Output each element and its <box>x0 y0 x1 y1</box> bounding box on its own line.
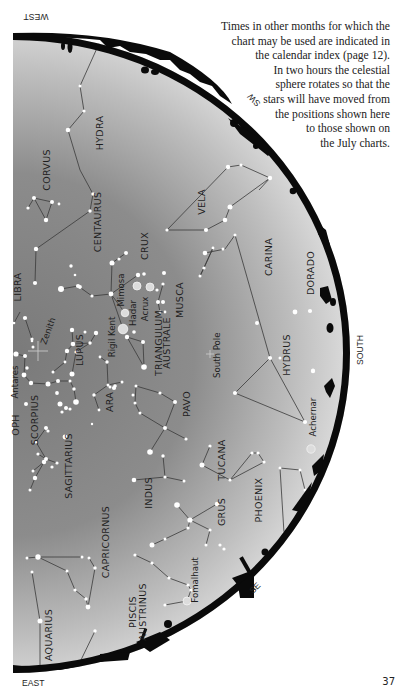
star-icon <box>203 251 208 256</box>
star-icon <box>13 351 18 356</box>
constellation-label: HYDRA <box>94 116 105 151</box>
star-icon <box>64 406 68 410</box>
star-icon <box>163 475 166 478</box>
constellation-label: AUSTRALE <box>161 317 172 369</box>
star-icon <box>73 588 76 591</box>
star-icon <box>31 340 34 343</box>
caption-line: sphere rotates so that the <box>190 78 390 93</box>
star-icon <box>308 309 312 313</box>
star-icon <box>204 228 208 232</box>
star-icon <box>125 335 129 339</box>
constellation-label: PAVO <box>181 391 192 417</box>
caption-line: the July charts. <box>190 137 390 152</box>
star-icon <box>133 553 136 556</box>
star-icon <box>50 465 53 468</box>
star-icon <box>164 538 167 541</box>
star-icon <box>44 218 48 222</box>
direction-west: WEST <box>23 12 49 22</box>
star-icon <box>24 402 28 406</box>
star-icon <box>68 407 71 410</box>
star-icon <box>90 294 93 297</box>
star-icon <box>70 372 75 377</box>
constellation-label: CARINA <box>263 238 274 276</box>
star-icon <box>26 557 29 560</box>
star-icon <box>93 566 96 569</box>
constellation-label: ARA <box>104 392 115 412</box>
star-icon <box>234 234 237 237</box>
star-icon <box>69 264 72 267</box>
star-icon <box>262 460 265 463</box>
star-icon <box>228 205 233 210</box>
star-icon <box>208 444 211 447</box>
star-icon <box>99 356 102 359</box>
star-icon <box>163 426 167 430</box>
star-icon <box>223 218 228 223</box>
star-icon <box>35 554 40 559</box>
star-icon <box>228 478 231 481</box>
star-icon <box>58 203 61 206</box>
constellation-label: HYDRUS <box>281 334 292 376</box>
star-icon <box>46 382 51 387</box>
star-icon <box>150 561 153 564</box>
star-icon <box>293 310 298 315</box>
star-icon <box>31 571 34 574</box>
star-icon <box>44 426 48 430</box>
star-icon <box>91 423 93 425</box>
star-icon <box>56 379 60 383</box>
constellation-label: OPH <box>10 414 21 435</box>
star-icon <box>121 381 124 384</box>
star-icon <box>29 489 32 492</box>
star-icon <box>86 605 91 610</box>
star-icon <box>184 437 187 440</box>
star-icon <box>255 321 259 325</box>
star-icon <box>84 597 87 600</box>
star-icon <box>94 331 98 335</box>
star-icon <box>303 420 307 424</box>
constellation-label: AUSTRINUS <box>137 583 148 640</box>
star-icon <box>58 286 64 292</box>
caption-line: stars will have moved from <box>190 93 390 108</box>
star-name-label: Achernar <box>308 397 318 436</box>
star-icon <box>173 400 177 404</box>
star-icon <box>199 275 202 278</box>
constellation-label: SAGITTARIUS <box>63 433 74 499</box>
star-icon <box>186 526 189 529</box>
star-icon <box>139 412 142 415</box>
star-icon <box>38 619 43 624</box>
constellation-label: CRUX <box>139 232 150 260</box>
constellation-label: DORADO <box>305 251 316 295</box>
star-icon <box>33 476 37 480</box>
star-icon <box>88 557 91 560</box>
caption-line: the positions shown here <box>190 108 390 123</box>
star-icon <box>74 274 77 277</box>
star-icon <box>183 480 186 483</box>
star-icon <box>147 449 153 455</box>
star-icon <box>226 165 230 169</box>
star-icon <box>46 429 49 432</box>
star-icon <box>161 282 164 285</box>
star-icon <box>58 402 63 407</box>
star-icon <box>164 311 167 314</box>
star-icon <box>141 364 147 370</box>
star-icon <box>42 460 46 464</box>
star-icon <box>72 387 75 390</box>
south-pole-label: South Pole <box>212 332 222 378</box>
star-icon <box>98 409 101 412</box>
star-icon <box>23 316 27 320</box>
star-icon <box>161 454 164 457</box>
star-icon <box>208 528 211 531</box>
star-icon <box>22 373 27 378</box>
star-icon <box>82 109 85 112</box>
constellation-label: LIBRA <box>12 272 23 301</box>
star-icon <box>165 228 168 231</box>
star-icon <box>73 399 79 405</box>
star-icon <box>93 629 96 632</box>
constellation-label: CORVUS <box>41 149 52 190</box>
star-icon <box>23 354 27 358</box>
star-icon <box>132 394 135 397</box>
star-icon <box>212 247 215 250</box>
star-icon <box>26 206 29 209</box>
star-icon <box>163 603 166 606</box>
star-name-label: Hadar <box>128 300 138 326</box>
direction-east: EAST <box>22 678 45 688</box>
